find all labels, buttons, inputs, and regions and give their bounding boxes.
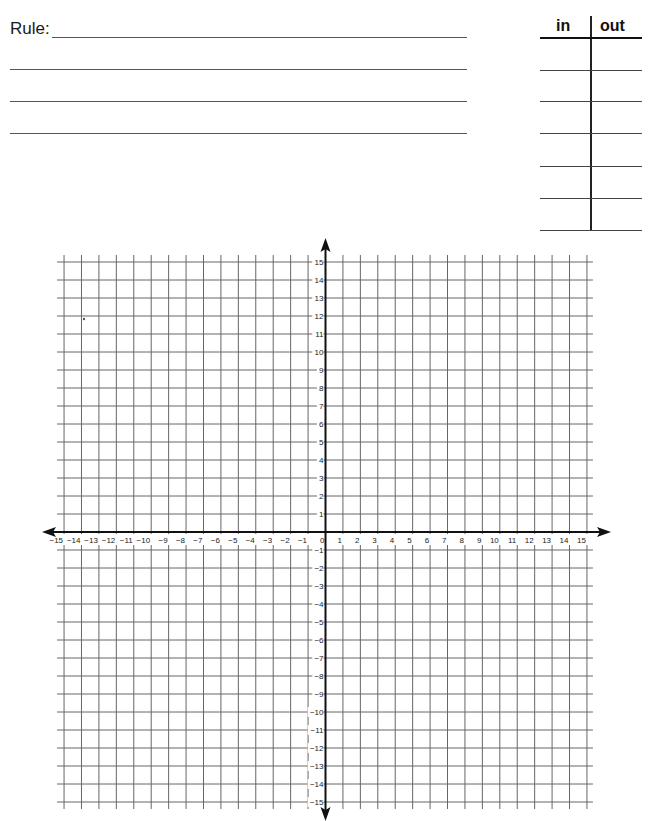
y-tick-label: −14 (310, 780, 324, 789)
y-tick-label: −3 (314, 582, 324, 591)
y-tick-label: 13 (315, 294, 324, 303)
x-tick-label: 7 (442, 536, 447, 545)
y-tick-label: −11 (311, 726, 325, 735)
y-tick-label: −15 (310, 798, 324, 807)
x-tick-label: −8 (176, 536, 186, 545)
x-tick-label: −7 (193, 536, 203, 545)
y-tick-label: 11 (315, 330, 324, 339)
y-tick-label: 6 (319, 420, 324, 429)
y-tick-label: 15 (315, 258, 324, 267)
y-tick-label: −8 (314, 672, 324, 681)
y-tick-label: 8 (319, 384, 324, 393)
stray-mark (83, 318, 85, 320)
y-tick-label: 9 (319, 366, 324, 375)
x-tick-label: 10 (490, 536, 499, 545)
x-tick-label: 2 (355, 536, 360, 545)
x-tick-label: −9 (159, 536, 169, 545)
x-tick-label: −13 (84, 536, 98, 545)
x-tick-label: −14 (67, 536, 81, 545)
y-tick-label: 7 (319, 402, 324, 411)
x-tick-label: 5 (407, 536, 412, 545)
coordinate-plane: −15−14−13−12−11−10−9−8−7−6−5−4−3−2−10123… (0, 0, 657, 821)
x-tick-label: 13 (542, 536, 551, 545)
x-tick-label: 8 (459, 536, 464, 545)
y-tick-label: −1 (314, 546, 324, 555)
x-tick-label: −10 (137, 536, 151, 545)
x-tick-label: 14 (560, 536, 569, 545)
y-tick-label: 12 (315, 312, 324, 321)
x-tick-label: −15 (49, 536, 63, 545)
x-tick-label: −1 (298, 536, 308, 545)
x-tick-label: −2 (281, 536, 291, 545)
y-tick-label: 2 (319, 492, 324, 501)
x-tick-label: 3 (372, 536, 377, 545)
x-tick-label: 1 (337, 536, 342, 545)
x-tick-label: −4 (246, 536, 256, 545)
x-tick-label: −11 (120, 536, 134, 545)
x-tick-label: 11 (508, 536, 517, 545)
y-tick-label: −5 (314, 618, 324, 627)
x-tick-label: 9 (477, 536, 482, 545)
y-tick-label: −6 (314, 636, 324, 645)
x-tick-label: 6 (425, 536, 430, 545)
x-tick-label: 0 (320, 536, 325, 545)
x-tick-label: −3 (263, 536, 273, 545)
y-tick-label: −9 (314, 690, 324, 699)
x-tick-label: −12 (102, 536, 116, 545)
y-tick-label: −7 (314, 654, 324, 663)
x-tick-label: −6 (211, 536, 221, 545)
x-tick-label: −5 (228, 536, 238, 545)
y-tick-label: 14 (315, 276, 324, 285)
y-tick-label: 3 (319, 474, 324, 483)
x-tick-label: 12 (525, 536, 534, 545)
y-tick-label: 5 (319, 438, 324, 447)
y-tick-label: 4 (319, 456, 324, 465)
x-tick-label: 4 (390, 536, 395, 545)
y-tick-label: −4 (314, 600, 324, 609)
y-tick-label: 1 (319, 510, 324, 519)
y-tick-label: −10 (310, 708, 324, 717)
x-tick-label: 15 (577, 536, 586, 545)
y-tick-label: −12 (310, 744, 324, 753)
y-tick-label: 10 (315, 348, 324, 357)
y-tick-label: −2 (314, 564, 324, 573)
y-tick-label: −13 (310, 762, 324, 771)
